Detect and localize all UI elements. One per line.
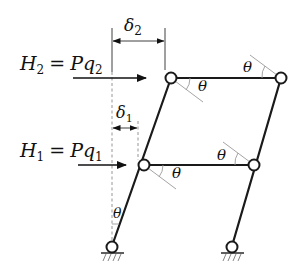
- lower-right-theta-label: θ: [217, 146, 226, 164]
- frame-diagram: δ2 δ1 θ θ θ θ θ: [0, 0, 308, 278]
- upper-left-theta-label: θ: [198, 77, 207, 95]
- hinge-lower-left: [139, 160, 150, 171]
- hinge-base-right: [227, 242, 238, 253]
- base-theta-label: θ: [113, 205, 122, 221]
- angle-markers: θ θ θ θ θ: [112, 55, 281, 224]
- hinge-lower-right: [249, 160, 260, 171]
- hinge-upper-left: [166, 73, 177, 84]
- delta2-label: δ2: [124, 15, 142, 38]
- H1-equation: H1=Pq1: [19, 139, 103, 164]
- hinges: [107, 73, 287, 253]
- delta1-label: δ1: [116, 103, 133, 125]
- upper-right-theta-label: θ: [243, 58, 252, 76]
- left-support: [101, 253, 124, 261]
- delta2-dimension: δ2: [113, 15, 165, 70]
- load-H2: H2=Pq2: [19, 52, 146, 78]
- hinge-base-left: [107, 242, 118, 253]
- lower-left-theta-label: θ: [172, 164, 181, 182]
- delta1-dimension: δ1: [113, 103, 138, 160]
- load-H1: H1=Pq1: [19, 139, 126, 165]
- hinge-upper-right: [276, 73, 287, 84]
- right-support: [221, 253, 244, 261]
- H2-equation: H2=Pq2: [19, 52, 103, 77]
